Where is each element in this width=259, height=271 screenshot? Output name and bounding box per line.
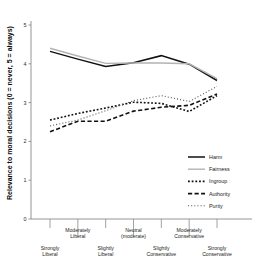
- x-tick-label: Slightly: [97, 245, 114, 251]
- x-tick-label: (moderate): [121, 233, 146, 239]
- x-tick-label: Liberal: [42, 251, 57, 257]
- y-tick-label: 4: [24, 61, 27, 67]
- series-line-purity: [50, 86, 217, 126]
- line-chart: Relevance to moral decisions (0 = never,…: [0, 0, 259, 271]
- y-tick-label: 2: [24, 138, 27, 144]
- y-axis-title: Relevance to moral decisions (0 = never,…: [6, 26, 14, 200]
- x-tick-label: Neutral: [125, 227, 141, 233]
- series-line-ingroup: [50, 96, 217, 120]
- y-tick-label: 0: [24, 216, 27, 222]
- legend-label-purity: Purity: [209, 203, 223, 209]
- x-tick-label: Liberal: [98, 251, 113, 257]
- x-tick-label: Conservative: [146, 251, 176, 257]
- legend-group: HarmFairnessIngroupAuthorityPurity: [188, 154, 231, 209]
- y-axis-label-group: Relevance to moral decisions (0 = never,…: [6, 26, 14, 200]
- x-tick-label: Moderately: [177, 227, 203, 233]
- y-axis-group: 012345: [24, 21, 32, 222]
- data-series-group: [50, 48, 217, 131]
- x-tick-label: Moderately: [65, 227, 91, 233]
- y-tick-label: 1: [24, 177, 27, 183]
- x-tick-label: Strongly: [208, 245, 227, 251]
- x-tick-label: Liberal: [70, 233, 85, 239]
- figure-container: Relevance to moral decisions (0 = never,…: [0, 0, 259, 271]
- x-tick-label: Conservative: [202, 251, 232, 257]
- y-tick-label: 5: [24, 22, 27, 28]
- x-axis-group: StronglyLiberalModeratelyLiberalSlightly…: [31, 219, 252, 257]
- x-tick-label: Slightly: [153, 245, 170, 251]
- y-tick-label: 3: [24, 100, 27, 106]
- x-tick-label: Strongly: [41, 245, 60, 251]
- legend-label-ingroup: Ingroup: [209, 178, 227, 184]
- legend-label-authority: Authority: [209, 191, 231, 197]
- series-line-fairness: [50, 48, 217, 78]
- x-tick-label: Conservative: [174, 233, 204, 239]
- legend-label-fairness: Fairness: [209, 166, 230, 172]
- legend-label-harm: Harm: [209, 154, 223, 160]
